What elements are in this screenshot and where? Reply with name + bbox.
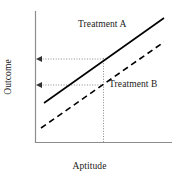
y-axis-label: Outcome — [3, 42, 13, 112]
x-axis-label: Aptitude — [0, 161, 179, 171]
series-label-treatment-b: Treatment B — [109, 79, 158, 89]
outcome-reference-arrowhead-treatment-b — [36, 82, 42, 88]
chart-figure: Treatment A Treatment B Aptitude Outcome — [0, 0, 179, 180]
outcome-reference-arrowhead-treatment-a — [36, 56, 42, 62]
series-label-treatment-a: Treatment A — [78, 19, 127, 29]
series-line-treatment-a — [44, 18, 164, 103]
